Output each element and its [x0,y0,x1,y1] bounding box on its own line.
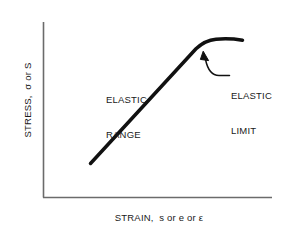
elastic-range-annotation: ELASTIC RANGE [106,71,147,163]
elastic-range-line-1: ELASTIC [106,94,147,106]
elastic-limit-line-1: ELASTIC [231,90,272,102]
elastic-limit-arrowhead [200,51,208,60]
y-axis-label: STRESS, σ or S [22,35,34,165]
elastic-limit-annotation: ELASTIC LIMIT [231,67,272,159]
stress-strain-figure: STRESS, σ or S STRAIN, s or e or ε ELAST… [0,0,291,236]
elastic-range-line-2: RANGE [106,129,147,141]
elastic-limit-line-2: LIMIT [231,125,272,137]
elastic-limit-leader-line [206,60,230,76]
x-axis-label: STRAIN, s or e or ε [45,212,273,224]
